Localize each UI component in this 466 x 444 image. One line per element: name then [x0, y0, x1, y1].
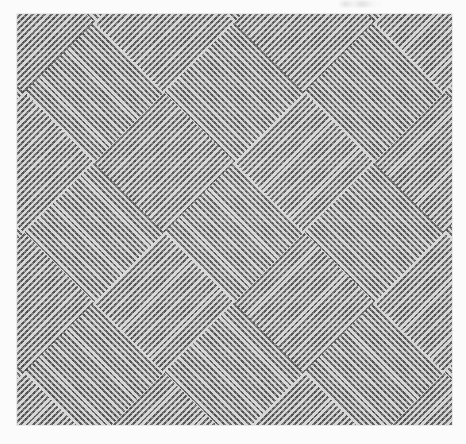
diagonal-stripe-layer-backward	[17, 14, 452, 425]
optical-art-pattern-plate	[17, 14, 452, 425]
page-canvas: Nested chevron / diamond contour field	[0, 0, 466, 444]
scan-smudge-artifact	[338, 1, 384, 7]
